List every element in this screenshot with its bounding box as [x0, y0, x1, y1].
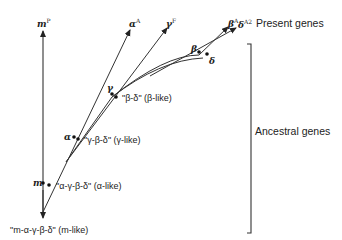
node-gamma-like	[76, 137, 80, 141]
ancestor-label-gamma-like: "γ-β-δ" (γ-like)	[84, 135, 141, 145]
gene-label-m: mP	[37, 16, 51, 29]
ancestral-genes-label: Ancestral genes	[255, 126, 330, 136]
root-ancestor-label: "m-α-γ-β-δ" (m-like)	[10, 225, 88, 235]
gene-label-alpha: αA	[129, 16, 140, 29]
gene-label-beta: βA	[228, 16, 238, 29]
node-beta-like	[114, 95, 118, 99]
branch-label-alpha: α	[64, 132, 71, 142]
branch-label-delta: δ	[209, 56, 215, 66]
node-beta	[197, 50, 201, 54]
branch-label-beta: β	[191, 44, 197, 54]
gene-tree-diagram	[0, 0, 342, 240]
bd-trunk	[112, 58, 203, 97]
node-alpha	[72, 135, 76, 139]
node-alpha-like	[47, 183, 51, 187]
ancestor-label-beta-like: "β-δ" (β-like)	[122, 93, 172, 103]
branch-label-gamma: γ	[107, 83, 113, 93]
gene-label-delta: δA2	[238, 17, 252, 30]
present-genes-label: Present genes	[256, 18, 324, 28]
ancestral-bracket	[247, 44, 251, 233]
gene-label-gamma: γF	[166, 16, 176, 29]
ancestor-label-alpha-like: "α-γ-β-δ" (α-like)	[56, 181, 121, 191]
branch-label-m: m	[33, 178, 43, 188]
